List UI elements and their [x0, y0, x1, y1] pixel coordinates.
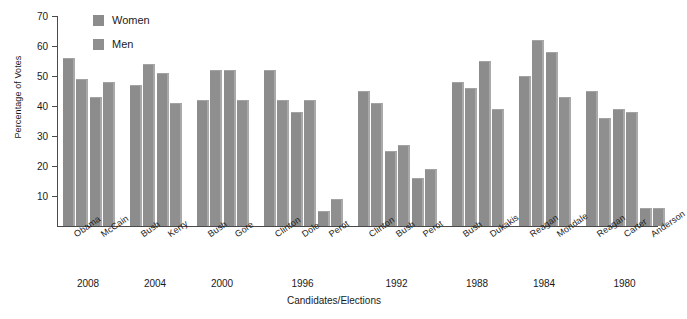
bar-women-reagan-1980: [586, 91, 598, 226]
bar-women-gore-2000: [224, 70, 236, 226]
bar-women-bush-1988: [452, 82, 464, 226]
bar-men-mondale-1984: [559, 97, 571, 226]
bar-women-mondale-1984: [546, 52, 558, 226]
y-tick-label-20: 20: [37, 161, 48, 172]
year-label-1988: 1988: [466, 278, 488, 289]
plot-area: 10203040506070: [57, 16, 658, 226]
year-label-2000: 2000: [211, 278, 233, 289]
y-tick-label-60: 60: [37, 41, 48, 52]
y-tick-label-30: 30: [37, 131, 48, 142]
bar-men-kerry-2004: [170, 103, 182, 226]
y-tick-label-50: 50: [37, 71, 48, 82]
year-label-1996: 1996: [291, 278, 313, 289]
bar-women-clinton-1992: [358, 91, 370, 226]
bar-men-bush-1988: [465, 88, 477, 226]
y-tick-60: [52, 46, 57, 47]
bar-men-dole-1996: [304, 100, 316, 226]
y-tick-label-10: 10: [37, 191, 48, 202]
y-tick-label-40: 40: [37, 101, 48, 112]
year-label-1984: 1984: [533, 278, 555, 289]
bar-men-carter-1980: [626, 112, 638, 226]
y-tick-50: [52, 76, 57, 77]
bar-women-bush-2004: [130, 85, 142, 226]
x-axis-title: Candidates/Elections: [0, 295, 668, 306]
bar-men-gore-2000: [237, 100, 249, 226]
bar-men-mccain-2008: [103, 82, 115, 226]
bar-men-reagan-1980: [599, 118, 611, 226]
bar-men-bush-2000: [210, 70, 222, 226]
bar-men-clinton-1992: [371, 103, 383, 226]
bar-women-carter-1980: [613, 109, 625, 226]
bar-women-perot-1992: [412, 178, 424, 226]
year-label-2008: 2008: [77, 278, 99, 289]
y-tick-label-70: 70: [37, 11, 48, 22]
bar-men-dukakis-1988: [492, 109, 504, 226]
y-tick-10: [52, 196, 57, 197]
y-tick-20: [52, 166, 57, 167]
year-label-1992: 1992: [385, 278, 407, 289]
bar-men-obama-2008: [76, 79, 88, 226]
bar-women-clinton-1996: [264, 70, 276, 226]
y-tick-30: [52, 136, 57, 137]
bar-men-bush-2004: [143, 64, 155, 226]
bar-men-clinton-1996: [277, 100, 289, 226]
bar-men-reagan-1984: [532, 40, 544, 226]
y-axis-title: Percentage of Votes: [13, 17, 23, 177]
bar-series-container: [58, 16, 658, 226]
bar-women-bush-2000: [197, 100, 209, 226]
year-label-1980: 1980: [613, 278, 635, 289]
bar-women-reagan-1984: [519, 76, 531, 226]
bar-men-perot-1992: [425, 169, 437, 226]
bar-women-dukakis-1988: [479, 61, 491, 226]
bar-women-dole-1996: [291, 112, 303, 226]
year-label-2004: 2004: [144, 278, 166, 289]
bar-women-perot-1996: [318, 211, 330, 226]
bar-women-mccain-2008: [90, 97, 102, 226]
y-tick-40: [52, 106, 57, 107]
y-tick-70: [52, 16, 57, 17]
bar-women-obama-2008: [63, 58, 75, 226]
bar-women-kerry-2004: [157, 73, 169, 226]
bar-men-bush-1992: [398, 145, 410, 226]
